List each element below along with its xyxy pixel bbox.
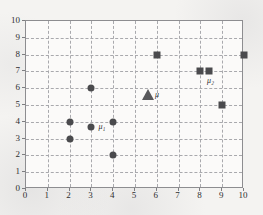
- gridline-vertical: [91, 21, 92, 187]
- data-point-square: [241, 51, 248, 58]
- gridline-horizontal: [26, 105, 242, 106]
- x-tick-label: 9: [219, 191, 224, 200]
- y-tick-mark: [22, 37, 25, 38]
- gridline-horizontal: [26, 155, 242, 156]
- x-tick-label: 8: [197, 191, 202, 200]
- y-tick-label: 10: [4, 16, 20, 25]
- plot-area: μ₁μ₂μ: [25, 20, 243, 188]
- data-point-triangle: [142, 89, 154, 100]
- y-tick-mark: [22, 70, 25, 71]
- y-tick-mark: [22, 54, 25, 55]
- gridline-horizontal: [26, 122, 242, 123]
- y-tick-label: 4: [4, 116, 20, 125]
- y-tick-mark: [22, 20, 25, 21]
- y-tick-mark: [22, 121, 25, 122]
- y-tick-label: 9: [4, 32, 20, 41]
- data-point-circle: [66, 118, 73, 125]
- y-tick-label: 2: [4, 150, 20, 159]
- x-tick-label: 10: [239, 191, 248, 200]
- y-tick-mark: [22, 171, 25, 172]
- x-tick-label: 4: [110, 191, 115, 200]
- gridline-vertical: [48, 21, 49, 187]
- y-tick-mark: [22, 87, 25, 88]
- data-point-square: [153, 51, 160, 58]
- data-point-square: [219, 102, 226, 109]
- centroid-label: μ₁: [98, 123, 105, 131]
- scatter-plot-figure: μ₁μ₂μ 012345678910 012345678910: [0, 0, 263, 215]
- y-tick-mark: [22, 104, 25, 105]
- data-point-circle: [88, 85, 95, 92]
- gridline-horizontal: [26, 88, 242, 89]
- y-tick-label: 5: [4, 100, 20, 109]
- data-point-circle: [88, 123, 95, 130]
- gridline-vertical: [157, 21, 158, 187]
- data-point-square: [197, 68, 204, 75]
- x-tick-label: 0: [23, 191, 28, 200]
- gridline-vertical: [200, 21, 201, 187]
- y-tick-mark: [22, 138, 25, 139]
- gridline-horizontal: [26, 55, 242, 56]
- y-tick-mark: [22, 154, 25, 155]
- data-point-circle: [110, 118, 117, 125]
- y-tick-label: 8: [4, 49, 20, 58]
- y-tick-label: 3: [4, 133, 20, 142]
- gridline-vertical: [70, 21, 71, 187]
- y-tick-mark: [22, 188, 25, 189]
- x-tick-label: 7: [175, 191, 180, 200]
- x-tick-label: 2: [66, 191, 71, 200]
- gridline-vertical: [135, 21, 136, 187]
- centroid-label: μ: [155, 91, 159, 99]
- data-point-circle: [110, 152, 117, 159]
- x-tick-label: 3: [88, 191, 93, 200]
- gridline-horizontal: [26, 172, 242, 173]
- centroid-label: μ₂: [207, 77, 214, 85]
- y-tick-label: 6: [4, 83, 20, 92]
- gridline-horizontal: [26, 139, 242, 140]
- y-tick-label: 7: [4, 66, 20, 75]
- gridline-vertical: [179, 21, 180, 187]
- data-point-circle: [66, 135, 73, 142]
- gridline-horizontal: [26, 38, 242, 39]
- y-tick-label: 0: [4, 184, 20, 193]
- data-point-square: [206, 68, 213, 75]
- gridline-vertical: [113, 21, 114, 187]
- x-tick-label: 6: [154, 191, 159, 200]
- x-tick-label: 1: [45, 191, 50, 200]
- y-tick-label: 1: [4, 167, 20, 176]
- x-tick-label: 5: [132, 191, 137, 200]
